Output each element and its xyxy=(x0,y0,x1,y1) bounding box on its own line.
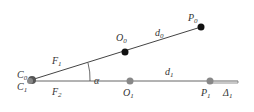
label-d1: d1 xyxy=(165,66,174,79)
point-p1 xyxy=(207,78,214,85)
label-o0: O0 xyxy=(116,32,127,45)
label-delta1: Δ1 xyxy=(222,87,232,100)
label-p1: P1 xyxy=(200,87,211,100)
label-o1: O1 xyxy=(123,87,134,100)
point-c1 xyxy=(27,78,33,84)
label-f1: F1 xyxy=(51,55,62,68)
label-c1: C1 xyxy=(17,81,27,94)
angle-arc xyxy=(88,63,90,81)
label-alpha: α xyxy=(94,75,100,86)
point-o0 xyxy=(122,49,129,56)
label-d0: d0 xyxy=(155,27,164,40)
diagram-canvas: C0 C1 O0 P0 O1 P1 F1 d0 F2 d1 Δ1 α xyxy=(0,0,254,112)
point-p0 xyxy=(198,24,205,31)
point-o1 xyxy=(127,78,134,85)
label-p0: P0 xyxy=(187,12,198,25)
label-f2: F2 xyxy=(51,86,62,99)
geometry-diagram: C0 C1 O0 P0 O1 P1 F1 d0 F2 d1 Δ1 α xyxy=(0,0,254,112)
